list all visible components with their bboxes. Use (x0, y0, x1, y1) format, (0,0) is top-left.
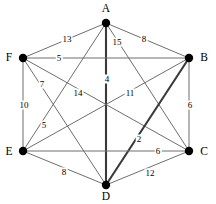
edge-weight-e-d: 8 (61, 168, 68, 177)
edge-weight-b-d: 2 (136, 135, 143, 144)
edge-weight-a-e: 5 (41, 121, 48, 130)
edge-b-d (106, 58, 189, 185)
edge-weight-f-e: 10 (19, 101, 30, 110)
vertex-label-c: C (200, 146, 208, 158)
edge-weight-a-f: 13 (62, 35, 73, 44)
vertex-label-f: F (6, 52, 12, 64)
edge-weight-b-c: 6 (187, 101, 194, 110)
edge-weight-d-c: 12 (145, 169, 156, 178)
vertex-node-f[interactable] (19, 54, 27, 62)
vertex-label-e: E (5, 146, 12, 158)
vertex-label-d: D (102, 191, 110, 203)
vertex-node-a[interactable] (102, 19, 110, 27)
weighted-graph-diagram: 138154557101411626812ABCDEF (0, 0, 216, 204)
graph-canvas (0, 0, 216, 204)
edge-weight-a-b: 8 (141, 35, 148, 44)
vertex-node-d[interactable] (102, 181, 110, 189)
edge-weight-e-c: 6 (155, 147, 162, 156)
edges-group (23, 23, 189, 185)
edge-weight-a-c: 15 (112, 38, 123, 47)
edge-weight-f-d: 7 (39, 80, 46, 89)
edge-weight-a-d: 4 (104, 75, 111, 84)
vertex-label-a: A (102, 3, 110, 15)
edge-weight-f-c: 14 (73, 89, 84, 98)
edge-weight-b-e: 11 (125, 89, 136, 98)
vertex-node-c[interactable] (185, 147, 193, 155)
vertex-node-b[interactable] (185, 54, 193, 62)
vertex-node-e[interactable] (19, 147, 27, 155)
vertex-label-b: B (200, 52, 208, 64)
edge-weight-f-b: 5 (56, 54, 63, 63)
